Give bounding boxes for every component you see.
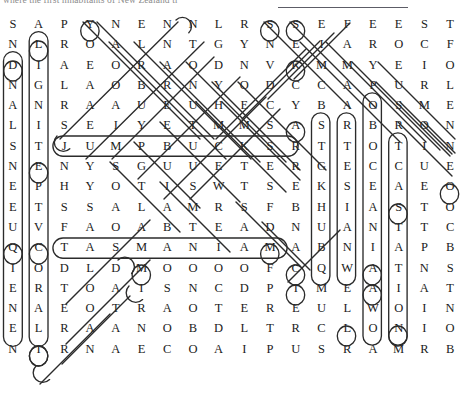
grid-cell[interactable]: A [283,237,309,257]
grid-cell[interactable]: E [437,95,463,115]
grid-cell[interactable]: N [103,14,129,34]
grid-cell[interactable]: N [180,75,206,95]
grid-cell[interactable]: T [180,34,206,54]
grid-cell[interactable]: O [154,258,180,278]
grid-cell[interactable]: M [257,237,283,257]
grid-cell[interactable]: I [231,339,257,359]
grid-cell[interactable]: S [51,115,77,135]
grid-cell[interactable]: A [26,14,52,34]
grid-cell[interactable]: N [51,156,77,176]
grid-cell[interactable]: R [51,95,77,115]
grid-cell[interactable]: T [26,136,52,156]
grid-cell[interactable]: I [412,298,438,318]
grid-cell[interactable]: L [334,318,360,338]
grid-cell[interactable]: C [154,339,180,359]
grid-cell[interactable]: O [386,34,412,54]
grid-cell[interactable]: G [129,156,155,176]
grid-cell[interactable]: U [309,217,335,237]
grid-cell[interactable]: O [103,55,129,75]
grid-cell[interactable]: R [206,197,232,217]
grid-cell[interactable]: O [437,176,463,196]
grid-cell[interactable]: E [231,95,257,115]
grid-cell[interactable]: M [231,115,257,135]
grid-cell[interactable]: R [412,339,438,359]
grid-cell[interactable]: R [334,339,360,359]
grid-cell[interactable]: A [360,339,386,359]
grid-cell[interactable]: E [154,115,180,135]
grid-cell[interactable]: T [231,156,257,176]
grid-cell[interactable]: A [0,95,26,115]
grid-cell[interactable]: U [180,136,206,156]
grid-cell[interactable]: A [129,217,155,237]
grid-cell[interactable]: K [231,136,257,156]
grid-cell[interactable]: G [26,75,52,95]
grid-cell[interactable]: T [51,237,77,257]
grid-cell[interactable]: N [283,217,309,237]
grid-cell[interactable]: P [360,75,386,95]
grid-cell[interactable]: O [103,176,129,196]
grid-cell[interactable]: S [231,197,257,217]
grid-cell[interactable]: A [77,75,103,95]
grid-cell[interactable]: R [386,115,412,135]
grid-cell[interactable]: S [309,115,335,135]
grid-cell[interactable]: P [51,14,77,34]
grid-cell[interactable]: O [206,258,232,278]
grid-cell[interactable]: N [334,237,360,257]
grid-cell[interactable]: R [283,318,309,338]
grid-cell[interactable]: D [257,217,283,237]
grid-cell[interactable]: I [26,115,52,135]
grid-cell[interactable]: Y [77,176,103,196]
grid-cell[interactable]: L [51,75,77,95]
grid-cell[interactable]: B [129,75,155,95]
grid-cell[interactable]: O [360,318,386,338]
grid-cell[interactable]: C [437,217,463,237]
grid-cell[interactable]: S [103,156,129,176]
grid-cell[interactable]: S [257,176,283,196]
grid-cell[interactable]: O [360,95,386,115]
grid-cell[interactable]: N [0,75,26,95]
grid-cell[interactable]: A [103,339,129,359]
grid-cell[interactable]: E [283,298,309,318]
grid-cell[interactable]: A [103,197,129,217]
grid-cell[interactable]: F [51,217,77,237]
grid-cell[interactable]: T [180,115,206,135]
grid-cell[interactable]: O [437,55,463,75]
grid-cell[interactable]: Y [77,14,103,34]
grid-cell[interactable]: O [154,318,180,338]
grid-cell[interactable]: A [51,55,77,75]
grid-cell[interactable]: E [206,217,232,237]
grid-cell[interactable]: A [231,237,257,257]
grid-cell[interactable]: I [412,136,438,156]
grid-cell[interactable]: L [26,34,52,54]
grid-cell[interactable]: A [206,339,232,359]
grid-cell[interactable]: T [51,278,77,298]
grid-cell[interactable]: S [103,237,129,257]
grid-cell[interactable]: I [103,115,129,135]
grid-cell[interactable]: E [334,278,360,298]
grid-cell[interactable]: S [257,115,283,135]
grid-cell[interactable]: I [334,197,360,217]
grid-cell[interactable]: A [103,95,129,115]
grid-cell[interactable]: T [437,278,463,298]
grid-cell[interactable]: E [0,278,26,298]
grid-cell[interactable]: I [386,278,412,298]
grid-cell[interactable]: E [206,156,232,176]
grid-cell[interactable]: A [154,197,180,217]
grid-cell[interactable]: A [412,278,438,298]
grid-cell[interactable]: L [206,14,232,34]
grid-cell[interactable]: A [334,95,360,115]
grid-cell[interactable]: U [180,156,206,176]
grid-cell[interactable]: U [180,95,206,115]
grid-cell[interactable]: B [309,95,335,115]
grid-cell[interactable]: R [51,339,77,359]
grid-cell[interactable]: F [257,197,283,217]
grid-cell[interactable]: N [386,318,412,338]
grid-cell[interactable]: F [334,14,360,34]
grid-cell[interactable]: N [154,14,180,34]
grid-cell[interactable]: M [334,55,360,75]
grid-cell[interactable]: S [437,258,463,278]
grid-cell[interactable]: M [180,197,206,217]
grid-cell[interactable]: M [309,55,335,75]
grid-cell[interactable]: T [386,258,412,278]
grid-cell[interactable]: O [437,197,463,217]
